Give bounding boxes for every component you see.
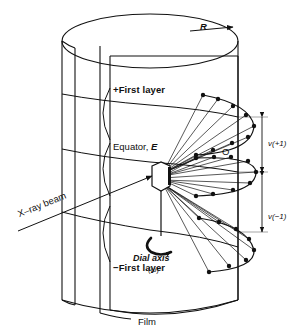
equator-symbol: E — [151, 141, 157, 152]
spot — [197, 216, 201, 220]
radius-arrow-line — [190, 27, 233, 31]
measure-guide-lines — [238, 117, 268, 232]
film-inner-edge-curve — [100, 313, 131, 319]
minus-first-layer-label: −First layer — [113, 262, 165, 273]
spot — [246, 159, 250, 163]
origin-spot-label: O — [222, 146, 229, 157]
minus-layer-spot-locus — [199, 218, 254, 272]
cylinder-bottom-arc — [62, 300, 238, 313]
spot — [247, 237, 251, 241]
ray-eq-6 — [163, 180, 250, 183]
spot — [252, 124, 256, 128]
ray-eq-4 — [163, 161, 248, 176]
spot — [227, 264, 231, 268]
ray-minus-8 — [163, 184, 209, 272]
spot — [231, 104, 235, 108]
diffraction-spots — [194, 93, 258, 274]
spot — [217, 220, 221, 224]
spot — [246, 135, 250, 139]
plus-layer-back-curve — [103, 88, 110, 140]
spot — [231, 188, 235, 192]
spot — [234, 227, 238, 231]
equator-label: Equator, E — [113, 141, 157, 152]
spot — [244, 258, 248, 262]
figure-canvas: R +First layer Equator, E O v(+1) v(−1) … — [0, 0, 301, 336]
equator-spot-locus — [196, 158, 256, 196]
spot-locus-curves — [196, 95, 256, 272]
spot — [230, 141, 234, 145]
spot — [207, 270, 211, 274]
ray-plus-2 — [163, 99, 218, 173]
plus-first-layer-label: +First layer — [113, 84, 165, 95]
spot — [252, 248, 256, 252]
spot — [194, 194, 198, 198]
radius-label: R — [200, 21, 207, 32]
spot — [194, 156, 198, 160]
spot — [201, 93, 205, 97]
equator-text: Equator, — [113, 141, 148, 152]
diagram-svg — [0, 0, 301, 336]
spot — [229, 155, 233, 159]
spot — [216, 97, 220, 101]
hexagonal-crystal-icon — [152, 162, 170, 191]
v-plus-one-label: v(+1) — [268, 139, 286, 148]
spot — [211, 148, 215, 152]
crystal-mount-face — [168, 167, 171, 185]
v-minus-one-label: v(−1) — [268, 212, 286, 221]
spot — [211, 192, 215, 196]
crystal-assembly — [152, 162, 171, 236]
film-label: Film — [138, 316, 156, 327]
ray-eq-5 — [163, 172, 256, 178]
minus-layer-back-curve — [103, 206, 110, 262]
radius-indicator — [190, 27, 233, 31]
cylinder-top-ellipse — [62, 14, 238, 68]
spot — [212, 155, 216, 159]
diffraction-rays — [163, 95, 256, 272]
equator-back-curve — [103, 143, 110, 196]
spot — [244, 113, 248, 117]
spot — [248, 181, 252, 185]
